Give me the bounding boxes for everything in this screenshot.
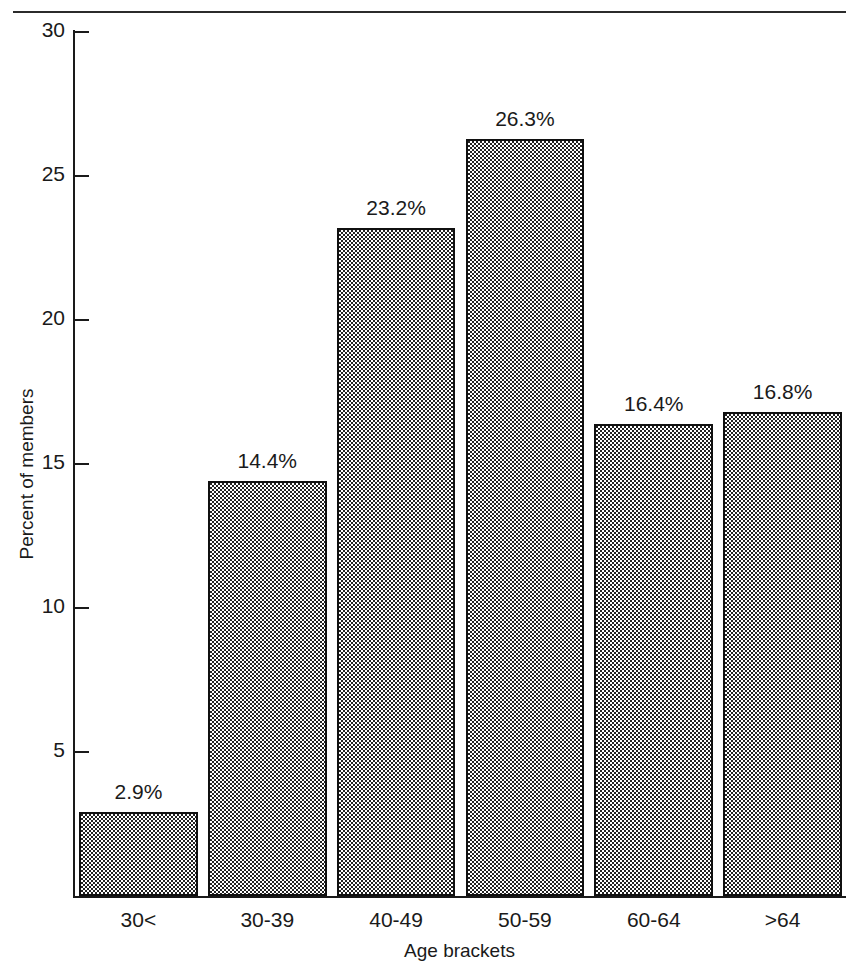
bar-value-label: 2.9% — [79, 780, 198, 804]
x-tick-label: 30-39 — [208, 908, 327, 932]
x-tick-label: 30< — [79, 908, 198, 932]
bar-group: 16.8%>64 — [723, 0, 842, 971]
bar[interactable] — [208, 481, 327, 896]
bar[interactable] — [466, 139, 585, 896]
bar[interactable] — [723, 412, 842, 896]
bar-value-label: 26.3% — [466, 107, 585, 131]
bar-group: 2.9%30< — [79, 0, 198, 971]
bar-chart: 51015202530 Percent of members 2.9%30<14… — [0, 0, 855, 971]
bar-group: 14.4%30-39 — [208, 0, 327, 971]
x-tick-label: 50-59 — [466, 908, 585, 932]
x-tick-label: 40-49 — [337, 908, 456, 932]
figure-page: 51015202530 Percent of members 2.9%30<14… — [0, 0, 855, 971]
x-axis-label: Age brackets — [73, 940, 846, 962]
bar[interactable] — [79, 812, 198, 896]
bar-value-label: 16.4% — [594, 392, 713, 416]
bar-group: 26.3%50-59 — [466, 0, 585, 971]
bar-group: 23.2%40-49 — [337, 0, 456, 971]
bar[interactable] — [594, 424, 713, 896]
bar-value-label: 16.8% — [723, 380, 842, 404]
bar-series: 2.9%30<14.4%30-3923.2%40-4926.3%50-5916.… — [0, 0, 855, 971]
x-tick-label: >64 — [723, 908, 842, 932]
bar-group: 16.4%60-64 — [594, 0, 713, 971]
x-tick-label: 60-64 — [594, 908, 713, 932]
bar[interactable] — [337, 228, 456, 896]
bar-value-label: 14.4% — [208, 449, 327, 473]
bar-value-label: 23.2% — [337, 196, 456, 220]
